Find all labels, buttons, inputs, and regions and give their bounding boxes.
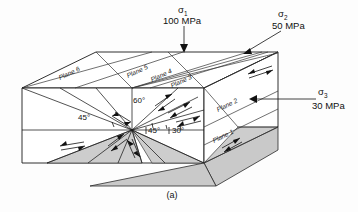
sigma2-annotation: σ2 50 MPa (243, 8, 305, 54)
sigma2-magnitude: 50 MPa (272, 20, 305, 31)
stress-block-figure: σ1 100 MPa σ2 50 MPa σ3 30 MPa Plane 6 P… (0, 0, 358, 212)
angle-label-45-right: 45° (148, 126, 160, 135)
angle-label-60: 60° (133, 96, 145, 105)
shade-base-front (90, 163, 216, 186)
figure-caption: (a) (167, 190, 178, 200)
sigma3-magnitude: 30 MPa (312, 100, 345, 111)
angle-label-30: 30° (172, 126, 184, 135)
sigma2-arrow-shaft (246, 31, 281, 52)
sigma1-magnitude: 100 MPa (163, 15, 202, 26)
sigma3-symbol: σ3 (318, 86, 328, 99)
sigma2-symbol: σ2 (278, 8, 288, 21)
figure-canvas: σ1 100 MPa σ2 50 MPa σ3 30 MPa Plane 6 P… (0, 0, 358, 212)
angle-label-45-left: 45° (78, 113, 90, 122)
sigma1-annotation: σ1 100 MPa (163, 4, 202, 53)
